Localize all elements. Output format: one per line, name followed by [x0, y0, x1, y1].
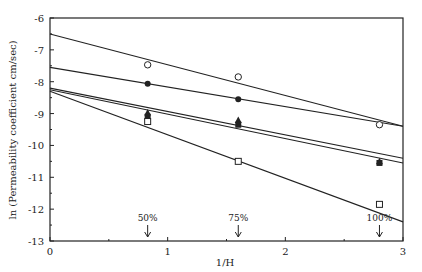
fit-line-filled-circle	[50, 67, 403, 126]
fit-line-filled-square	[50, 90, 403, 163]
axes: -6-7-8-9-10-11-12-130123	[28, 13, 406, 257]
y-axis-label: ln (Permeability coefficient cm/sec)	[7, 40, 18, 219]
annotation-label: 50%	[138, 213, 158, 223]
y-tick-label: -13	[28, 236, 44, 247]
x-tick-label: 1	[164, 246, 170, 257]
y-tick-label: -6	[34, 13, 44, 24]
plot-frame	[50, 18, 403, 241]
y-tick-label: -8	[34, 77, 44, 88]
x-tick-label: 3	[400, 246, 406, 257]
y-tick-label: -10	[28, 140, 44, 151]
filled-circle-marker	[235, 96, 241, 102]
x-tick-label: 2	[282, 246, 288, 257]
open-square-marker	[376, 201, 382, 207]
filled-circle-marker	[145, 81, 151, 87]
chart: -6-7-8-9-10-11-12-130123 50%75%100% 1/H …	[0, 0, 422, 272]
open-circle-marker	[235, 74, 241, 80]
open-circle-marker	[376, 122, 382, 128]
filled-square-marker	[235, 122, 241, 128]
fit-lines	[50, 34, 403, 222]
filled-square-marker	[376, 160, 382, 166]
open-square-marker	[145, 119, 151, 125]
x-axis-label: 1/H	[216, 257, 235, 268]
fit-line-open-circle	[50, 34, 403, 126]
annotation-label: 75%	[228, 213, 248, 223]
y-tick-label: -7	[34, 45, 44, 56]
open-square-marker	[235, 158, 241, 164]
annotations: 50%75%100%	[138, 213, 393, 237]
open-circle-marker	[144, 62, 150, 68]
y-tick-label: -12	[28, 204, 44, 215]
y-tick-label: -9	[34, 109, 44, 120]
fit-line-filled-triangle	[50, 88, 403, 158]
fit-line-open-square	[50, 91, 403, 222]
annotation-label: 100%	[367, 213, 393, 223]
x-tick-label: 0	[47, 246, 53, 257]
y-tick-label: -11	[28, 172, 44, 183]
